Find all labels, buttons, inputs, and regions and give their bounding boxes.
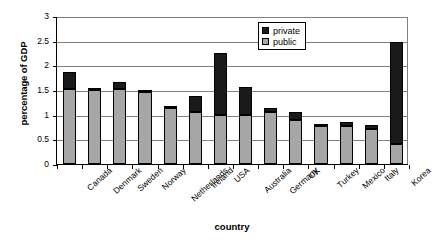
bar-segment-private xyxy=(88,88,101,90)
x-tick-mark xyxy=(409,165,410,169)
bar-turkey xyxy=(314,125,327,164)
bar-segment-public xyxy=(138,92,151,164)
x-label-mexico: Mexico xyxy=(361,166,387,191)
bar-segment-private xyxy=(264,108,277,112)
bars-layer xyxy=(57,17,408,164)
bar-segment-public xyxy=(164,108,177,164)
bar-segment-private xyxy=(138,90,151,92)
x-label-norway: Norway xyxy=(160,166,187,192)
y-tick-label: 2.5 xyxy=(23,37,49,46)
legend-label-private: private xyxy=(273,26,300,36)
bar-denmark xyxy=(88,88,101,164)
y-axis-title: percentage of GDP xyxy=(18,14,29,154)
bar-segment-public xyxy=(289,120,302,164)
x-axis-category-labels: CanadaDenmarkSwedenNorwayNetherlandsIrel… xyxy=(56,166,408,218)
bar-segment-public xyxy=(63,89,76,164)
bar-segment-private xyxy=(390,42,403,145)
bar-norway xyxy=(138,90,151,164)
bar-segment-public xyxy=(264,112,277,164)
y-tick-label: 2 xyxy=(23,61,49,70)
bar-uk xyxy=(289,112,302,164)
legend-label-public: public xyxy=(273,37,297,47)
bar-usa xyxy=(214,53,227,164)
bar-segment-public xyxy=(390,144,403,164)
bar-segment-private xyxy=(289,112,302,120)
y-tick-label: 0 xyxy=(23,160,49,169)
y-tick-label: 1 xyxy=(23,111,49,120)
bar-germany xyxy=(264,108,277,164)
x-label-turkey: Turkey xyxy=(336,166,361,190)
x-label-canada: Canada xyxy=(85,166,113,193)
bar-netherlands xyxy=(164,107,177,164)
legend-item-public: public xyxy=(262,36,300,47)
bar-korea xyxy=(390,42,403,164)
bar-canada xyxy=(63,72,76,164)
bar-segment-private xyxy=(63,72,76,89)
bar-segment-public xyxy=(88,90,101,164)
chart-legend: private public xyxy=(258,22,306,50)
legend-swatch-private-icon xyxy=(262,27,269,34)
x-axis-title: country xyxy=(56,221,408,232)
bar-segment-private xyxy=(214,53,227,115)
legend-item-private: private xyxy=(262,25,300,36)
x-label-ireland: Ireland xyxy=(210,166,235,190)
x-label-korea: Korea xyxy=(410,166,433,188)
y-tick-label: 3 xyxy=(23,12,49,21)
bar-segment-private xyxy=(365,125,378,129)
bar-segment-private xyxy=(314,124,327,126)
x-label-denmark: Denmark xyxy=(112,166,144,196)
bar-segment-private xyxy=(340,122,353,126)
y-tick-label: 1.5 xyxy=(23,86,49,95)
bar-segment-public xyxy=(239,115,252,164)
bar-segment-public xyxy=(340,126,353,164)
bar-segment-public xyxy=(314,126,327,164)
y-tick-label: 0.5 xyxy=(23,135,49,144)
bar-sweden xyxy=(113,82,126,164)
plot-area: 00.511.522.53 xyxy=(56,17,408,165)
bar-ireland xyxy=(189,96,202,164)
x-label-italy: Italy xyxy=(383,166,401,183)
bar-mexico xyxy=(340,122,353,164)
bar-segment-public xyxy=(113,89,126,164)
legend-swatch-public-icon xyxy=(262,38,269,45)
bar-segment-private xyxy=(164,106,177,108)
bar-segment-private xyxy=(113,82,126,89)
bar-segment-private xyxy=(239,87,252,115)
bar-australia xyxy=(239,87,252,164)
bar-segment-private xyxy=(189,96,202,112)
bar-segment-public xyxy=(214,115,227,164)
bar-segment-public xyxy=(365,129,378,164)
x-label-usa: USA xyxy=(233,166,252,184)
bar-segment-public xyxy=(189,112,202,164)
bar-italy xyxy=(365,125,378,164)
